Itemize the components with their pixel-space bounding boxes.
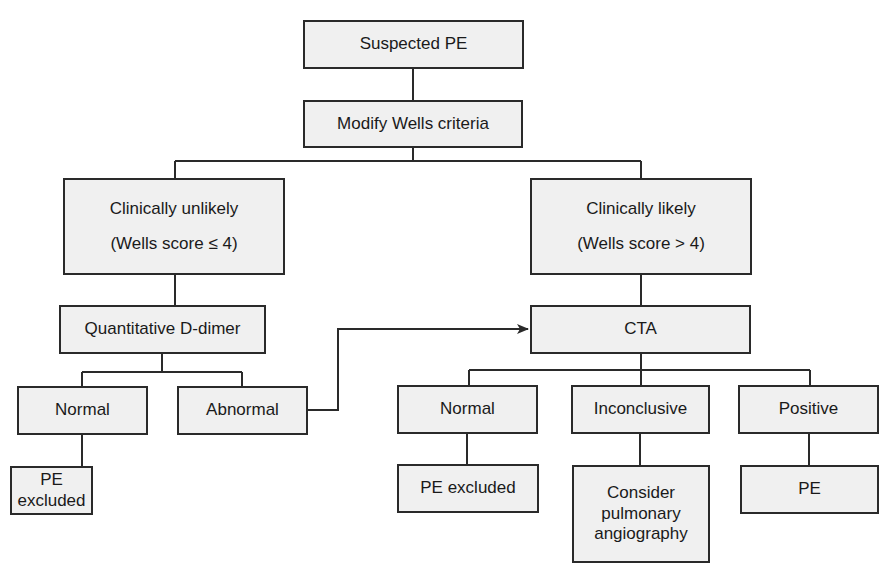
d-dimer-box: Quantitative D-dimer	[59, 305, 266, 354]
pe-excluded-right-label: PE excluded	[420, 478, 515, 498]
wells-criteria-box: Modify Wells criteria	[303, 100, 523, 148]
suspected-pe-label: Suspected PE	[360, 34, 468, 54]
clinically-unlikely-label: Clinically unlikely	[110, 199, 239, 219]
suspected-pe-box: Suspected PE	[303, 20, 524, 69]
consider-label: Consider	[607, 483, 675, 503]
cta-positive-box: Positive	[738, 385, 879, 434]
cta-normal-box: Normal	[397, 385, 538, 434]
d-dimer-label: Quantitative D-dimer	[85, 319, 241, 339]
clinically-likely-box: Clinically likely (Wells score > 4)	[530, 178, 752, 275]
consider-angiography-box: Consider pulmonary angiography	[572, 465, 710, 563]
pe-positive-box: PE	[740, 465, 879, 514]
d-dimer-normal-box: Normal	[17, 386, 148, 435]
clinically-likely-label: Clinically likely	[586, 199, 696, 219]
cta-positive-label: Positive	[779, 399, 839, 419]
clinically-unlikely-box: Clinically unlikely (Wells score ≤ 4)	[63, 178, 285, 275]
d-dimer-abnormal-box: Abnormal	[177, 386, 308, 435]
cta-label: CTA	[624, 319, 657, 339]
cta-box: CTA	[530, 305, 751, 354]
pe-excluded-left-label: PE excluded	[12, 470, 91, 511]
d-dimer-normal-label: Normal	[55, 400, 110, 420]
pulmonary-label: pulmonary	[601, 504, 680, 524]
pe-excluded-right-box: PE excluded	[397, 464, 539, 513]
cta-inconclusive-label: Inconclusive	[594, 399, 688, 419]
angiography-label: angiography	[594, 524, 688, 544]
cta-inconclusive-box: Inconclusive	[571, 385, 710, 434]
cta-normal-label: Normal	[440, 399, 495, 419]
wells-score-gt4-label: (Wells score > 4)	[577, 234, 705, 254]
d-dimer-abnormal-label: Abnormal	[206, 400, 279, 420]
wells-criteria-label: Modify Wells criteria	[337, 114, 489, 134]
pe-excluded-left-box: PE excluded	[10, 466, 93, 515]
wells-score-le4-label: (Wells score ≤ 4)	[110, 234, 237, 254]
pe-positive-label: PE	[798, 479, 821, 499]
